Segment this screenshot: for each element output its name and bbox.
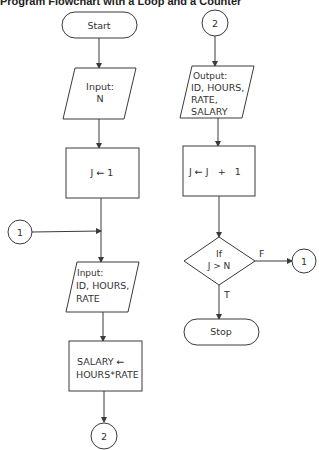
stop-terminal: Stop	[184, 319, 259, 345]
decision-line-2: J > N	[207, 261, 231, 271]
connector-1-left-label: 1	[17, 227, 23, 238]
increment-counter-process: J ← J + 1	[183, 146, 255, 196]
init-counter-process: J ← 1	[66, 148, 139, 198]
connector-1-right: 1	[292, 249, 316, 273]
connector-2-top: 2	[202, 10, 228, 36]
output-record-line-2: ID, HOURS,	[191, 82, 244, 93]
input-n-parallelogram: Input: N	[63, 68, 136, 119]
compute-salary-process: SALARY ← HOURS*RATE	[69, 341, 142, 391]
false-branch-label: F	[259, 248, 264, 259]
decision-diamond: If J > N	[184, 237, 255, 285]
start-label: Start	[87, 20, 110, 31]
true-branch-label: T	[223, 289, 230, 300]
start-terminal: Start	[62, 12, 137, 38]
decision-line-1: If	[216, 249, 223, 259]
init-counter-label: J ← 1	[90, 167, 114, 178]
connector-2-top-label: 2	[212, 18, 218, 29]
increment-counter-label: J ← J + 1	[188, 166, 241, 177]
connector-1-right-label: 1	[301, 256, 307, 267]
flowchart: Start Input: N J ← 1 1 Input: ID, HOURS,…	[0, 0, 319, 450]
output-record-line-3: RATE,	[191, 94, 218, 105]
output-record-line-1: Output:	[193, 71, 227, 81]
input-n-line-2: N	[96, 93, 103, 104]
output-record-line-4: SALARY	[191, 106, 228, 117]
connector-1-left: 1	[8, 220, 32, 244]
stop-label: Stop	[210, 326, 232, 337]
edge-connector-1-merge	[32, 231, 101, 232]
input-n-line-1: Input:	[86, 81, 114, 92]
compute-salary-line-1: SALARY ←	[77, 356, 125, 367]
connector-2-bottom-label: 2	[101, 431, 107, 442]
input-record-parallelogram: Input: ID, HOURS, RATE	[66, 262, 139, 312]
input-record-line-1: Input:	[77, 268, 103, 278]
compute-salary-line-2: HOURS*RATE	[76, 369, 139, 380]
input-record-line-3: RATE	[76, 293, 100, 304]
input-record-line-2: ID, HOURS,	[76, 280, 129, 291]
connector-2-bottom: 2	[91, 423, 117, 449]
output-record-parallelogram: Output: ID, HOURS, RATE, SALARY	[180, 66, 254, 118]
